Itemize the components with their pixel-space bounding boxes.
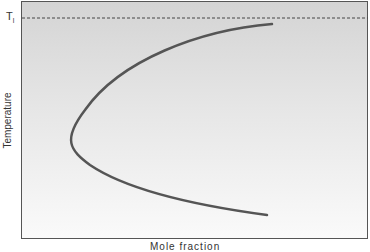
phase-curve: [71, 24, 272, 215]
y-axis-label: Temperature: [2, 86, 13, 156]
tl-label: Tl: [6, 10, 14, 24]
x-axis-label: Mole fraction: [150, 241, 220, 252]
